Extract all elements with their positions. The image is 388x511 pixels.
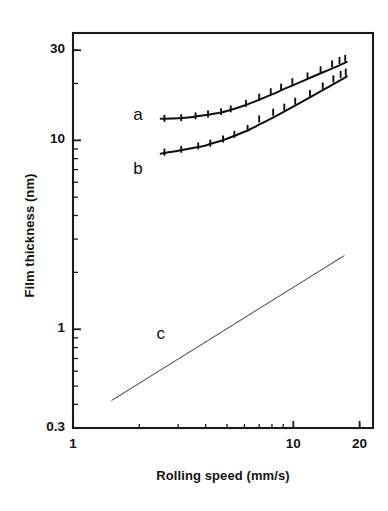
series-label-c: c	[157, 324, 166, 344]
series-data-markers	[164, 56, 345, 155]
y-tick-label: 1	[21, 320, 65, 335]
curve-c	[112, 256, 344, 401]
series-label-b: b	[133, 159, 142, 179]
y-tick-label: 0.3	[21, 419, 65, 434]
chart-figure: Film thickness (nm) Rolling speed (mm/s)…	[0, 0, 388, 511]
plot-frame	[73, 33, 373, 428]
curve-a	[161, 62, 347, 119]
curve-b	[161, 76, 347, 153]
series-curves	[112, 62, 347, 400]
y-axis-title: Film thickness (nm)	[22, 151, 37, 321]
series-label-a: a	[133, 105, 142, 125]
y-tick-label: 10	[21, 131, 65, 146]
x-tick-label: 20	[340, 436, 380, 451]
x-axis-title: Rolling speed (mm/s)	[73, 468, 373, 483]
chart-plot-svg	[0, 0, 388, 511]
x-tick-label: 1	[53, 436, 93, 451]
x-tick-label: 10	[273, 436, 313, 451]
y-tick-label: 30	[21, 41, 65, 56]
